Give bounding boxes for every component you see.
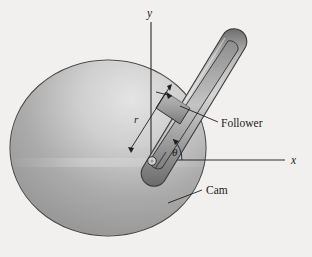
theta-label: θ [172, 146, 178, 158]
follower-label: Follower [221, 117, 263, 129]
radius-label: r [134, 113, 139, 125]
x-axis-label: x [290, 154, 297, 166]
y-axis-label: y [146, 7, 153, 20]
cam-label: Cam [206, 184, 228, 196]
pivot-pin [148, 157, 157, 166]
figure-canvas: x y [0, 0, 312, 257]
